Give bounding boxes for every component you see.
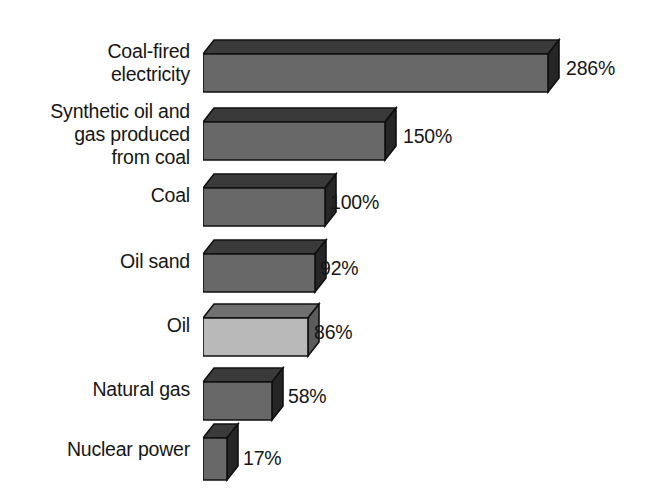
- bar-shape: [203, 238, 334, 296]
- value-label: 58%: [288, 386, 326, 406]
- category-label: Nuclear power: [0, 438, 190, 461]
- bar-shape: [203, 302, 327, 360]
- category-label: Oil sand: [0, 250, 190, 273]
- bar-shape: [203, 38, 565, 96]
- bar-3d: [203, 106, 403, 164]
- bar-shape: [203, 422, 245, 484]
- value-label: 17%: [243, 448, 281, 468]
- bar-3d-highlight: [203, 302, 327, 360]
- bar-3d: [203, 422, 245, 484]
- category-label: Coal-fired electricity: [0, 40, 190, 86]
- chart-row: Nuclear power 17%: [0, 418, 646, 484]
- bar-3d: [203, 366, 291, 424]
- chart-row: Coal-fired electricity 286%: [0, 32, 646, 94]
- value-label: 86%: [314, 322, 352, 342]
- bar-3d: [203, 38, 565, 96]
- category-label: Natural gas: [0, 378, 190, 401]
- value-label: 150%: [403, 126, 452, 146]
- bar-3d: [203, 172, 343, 230]
- bar-chart: Coal-fired electricity 286% Synthetic oi…: [0, 0, 646, 493]
- value-label: 100%: [330, 192, 379, 212]
- category-label: Coal: [0, 184, 190, 207]
- bar-3d: [203, 238, 334, 296]
- bar-shape: [203, 106, 403, 164]
- value-label: 286%: [566, 58, 615, 78]
- chart-row: Natural gas 58%: [0, 360, 646, 422]
- value-label: 92%: [320, 258, 358, 278]
- chart-row: Synthetic oil and gas produced from coal…: [0, 100, 646, 162]
- bar-shape: [203, 172, 343, 230]
- chart-row: Coal 100%: [0, 166, 646, 228]
- category-label: Oil: [0, 314, 190, 337]
- chart-row: Oil sand 92%: [0, 232, 646, 294]
- bar-shape: [203, 366, 291, 424]
- chart-row: Oil 86%: [0, 296, 646, 358]
- category-label: Synthetic oil and gas produced from coal: [0, 100, 190, 169]
